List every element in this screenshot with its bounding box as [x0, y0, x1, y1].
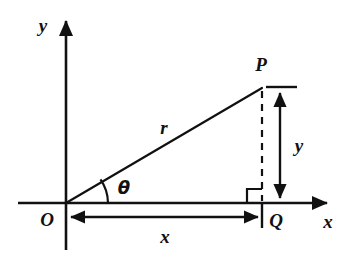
horizontal-leg-label: x — [159, 226, 170, 247]
x-axis-label: x — [322, 211, 333, 232]
right-angle-marker — [247, 189, 262, 203]
origin-point-label: O — [40, 209, 54, 230]
angle-theta-label: θ — [118, 177, 130, 198]
apex-point-label: P — [254, 54, 267, 75]
triangle-group — [66, 88, 262, 203]
foot-point-label: Q — [269, 210, 283, 231]
geometry-diagram: y x O P Q r θ x y — [0, 0, 354, 262]
vertical-leg-label: y — [293, 135, 304, 156]
x-dimension-group — [71, 204, 262, 228]
y-axis-label: y — [37, 15, 48, 36]
y-dimension-group — [266, 87, 297, 198]
diagram-canvas: y x O P Q r θ x y — [0, 0, 354, 262]
hypotenuse-label: r — [160, 117, 168, 138]
hypotenuse-line — [66, 88, 262, 203]
angle-arc — [101, 179, 109, 203]
